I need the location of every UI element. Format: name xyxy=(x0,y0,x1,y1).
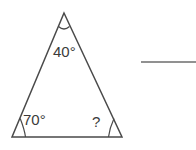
bottom-left-angle-label: 70° xyxy=(23,112,46,127)
bottom-right-angle-label: ? xyxy=(92,114,100,129)
bottom-right-angle-arc xyxy=(109,119,115,138)
apex-angle-label: 40° xyxy=(53,44,76,59)
figure-canvas: 40° 70° ? xyxy=(0,0,196,150)
apex-angle-arc xyxy=(59,27,70,30)
